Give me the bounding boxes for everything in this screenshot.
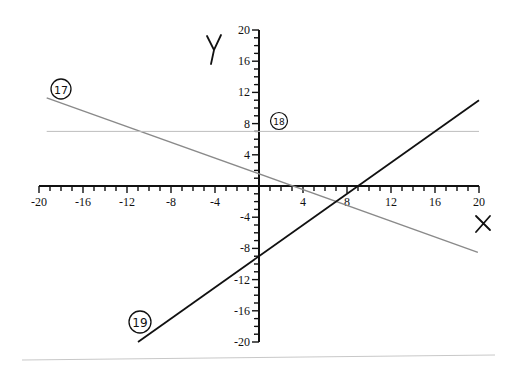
- y-axis-label: [207, 35, 221, 64]
- axes: -20-16-12-8-44812162020161284-4-8-12-16-…: [31, 23, 485, 349]
- y-tick-label: -8: [240, 241, 250, 255]
- y-tick-label: 4: [244, 148, 250, 162]
- page-baseline: [22, 355, 495, 360]
- coordinate-plane-chart: -20-16-12-8-44812162020161284-4-8-12-16-…: [0, 0, 515, 376]
- x-axis-label: [476, 216, 490, 232]
- svg-text:17: 17: [54, 84, 68, 97]
- line-17: [47, 98, 478, 252]
- y-tick-label: 16: [238, 54, 250, 68]
- y-tick-label: 12: [238, 85, 250, 99]
- series-lines: [47, 98, 479, 342]
- x-tick-label: 16: [429, 195, 441, 209]
- y-tick-label: -12: [234, 273, 250, 287]
- x-tick-label: -4: [210, 195, 220, 209]
- x-tick-label: -16: [75, 195, 91, 209]
- annotation-18: 18: [271, 113, 288, 130]
- x-tick-label: -12: [119, 195, 135, 209]
- y-tick-label: -20: [234, 335, 250, 349]
- annotation-19: 19: [129, 311, 151, 333]
- x-tick-label: 20: [473, 195, 485, 209]
- x-tick-label: -20: [31, 195, 47, 209]
- x-tick-label: 12: [385, 195, 397, 209]
- x-tick-label: 4: [300, 195, 306, 209]
- svg-text:19: 19: [132, 316, 147, 330]
- y-tick-label: 20: [238, 23, 250, 37]
- x-tick-label: -8: [166, 195, 176, 209]
- y-tick-label: -16: [234, 304, 250, 318]
- line-19: [138, 100, 479, 342]
- annotation-17: 17: [51, 79, 71, 99]
- y-tick-label: -4: [240, 210, 250, 224]
- y-tick-label: 8: [244, 117, 250, 131]
- svg-text:18: 18: [273, 117, 285, 127]
